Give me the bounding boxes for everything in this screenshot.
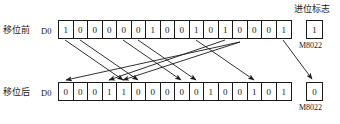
bit-cell: 0 — [161, 21, 176, 38]
shift-arrows-layer — [0, 0, 340, 124]
bit-cell: 1 — [117, 83, 132, 100]
arrow-group — [65, 40, 312, 80]
bit-cell: 1 — [277, 21, 292, 38]
bit-cell: 0 — [233, 21, 248, 38]
bit-cell: 0 — [88, 21, 103, 38]
bit-row-after: 0 0 0 1 1 0 0 0 0 0 1 0 0 1 0 1 — [58, 82, 292, 101]
carry-flag-title: 进位标志 — [294, 5, 330, 14]
register-label-before: D0 — [41, 27, 52, 36]
bit-cell: 0 — [132, 83, 147, 100]
bit-cell: 0 — [262, 21, 277, 38]
bit-cell: 1 — [103, 83, 118, 100]
bit-cell: 0 — [132, 21, 147, 38]
bit-cell: 0 — [117, 21, 132, 38]
bit-cell: 1 — [190, 21, 205, 38]
bit-cell: 1 — [146, 21, 161, 38]
bit-cell: 0 — [88, 83, 103, 100]
bit-cell: 1 — [204, 83, 219, 100]
bit-cell: 0 — [262, 83, 277, 100]
bit-cell: 0 — [103, 21, 118, 38]
register-label-after: D0 — [41, 89, 52, 98]
bit-cell: 0 — [59, 83, 74, 100]
bit-cell: 0 — [190, 83, 205, 100]
bit-cell: 1 — [248, 83, 263, 100]
bit-cell: 0 — [74, 83, 89, 100]
carry-flag-box-before: 1 — [306, 20, 323, 39]
carry-flag-box-after: 0 — [306, 82, 323, 101]
bit-cell: 0 — [175, 83, 190, 100]
bit-cell: 0 — [175, 21, 190, 38]
bit-cell: 0 — [74, 21, 89, 38]
bit-row-before: 1 0 0 0 0 0 1 0 0 1 0 1 0 0 0 1 — [58, 20, 292, 39]
row-label-before: 移位前 — [3, 26, 31, 35]
bit-cell: 1 — [277, 83, 292, 100]
bit-cell: 0 — [161, 83, 176, 100]
bit-cell: 0 — [233, 83, 248, 100]
bit-cell: 0 — [146, 83, 161, 100]
carry-device-label-before: M8022 — [299, 42, 322, 50]
bit-cell: 1 — [59, 21, 74, 38]
carry-device-label-after: M8022 — [299, 104, 322, 112]
row-label-after: 移位后 — [3, 88, 31, 97]
bit-cell: 0 — [204, 21, 219, 38]
bit-cell: 1 — [219, 21, 234, 38]
bit-cell: 0 — [219, 83, 234, 100]
shift-operation-diagram: 移位前 D0 1 0 0 0 0 0 1 0 0 1 0 1 0 0 0 1 移… — [0, 0, 340, 124]
bit-cell: 0 — [248, 21, 263, 38]
